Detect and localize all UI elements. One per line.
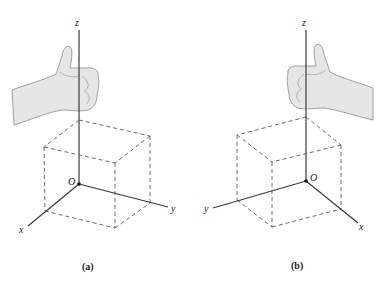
coordinate-systems-figure: z y x O (a) (0, 0, 385, 284)
origin-dot-a (77, 182, 81, 186)
x-axis-b (306, 181, 358, 223)
caption-a: (a) (82, 261, 94, 273)
x-label-b: x (358, 221, 364, 232)
origin-label-b: O (310, 172, 317, 183)
dashed-cube-a (44, 120, 150, 228)
y-label-a: y (170, 203, 176, 214)
origin-label-a: O (68, 176, 75, 187)
left-hand-icon (287, 44, 373, 120)
caption-b: (b) (291, 260, 303, 272)
x-axis-a (28, 184, 79, 226)
dashed-cube-b (237, 117, 341, 227)
panel-a: z y x O (a) (12, 17, 176, 273)
z-label-b: z (301, 17, 306, 28)
y-label-b: y (203, 203, 209, 214)
panel-b: z y x O (b) (203, 17, 373, 272)
y-axis-a (79, 184, 168, 207)
origin-dot-b (304, 179, 308, 183)
z-label-a: z (74, 17, 79, 28)
x-label-a: x (18, 224, 24, 235)
right-hand-icon (12, 46, 99, 125)
y-axis-b (213, 181, 306, 208)
